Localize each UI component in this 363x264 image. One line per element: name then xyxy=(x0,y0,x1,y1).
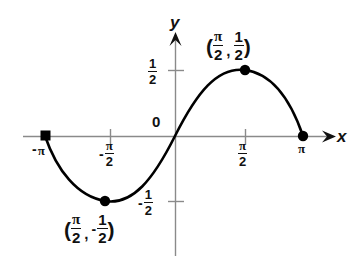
y-tick-neg-half-numerator: 1 xyxy=(144,188,153,203)
y-tick-half-denominator: 2 xyxy=(148,72,157,86)
peak-x-denominator: 2 xyxy=(213,46,223,62)
x-tick-neg-half-pi-denominator: 2 xyxy=(105,154,114,168)
peak-y-numerator: 1 xyxy=(234,29,244,46)
trough-y-numerator: 1 xyxy=(97,212,107,229)
trough-open-paren: ( xyxy=(64,219,71,240)
peak-close-paren: ) xyxy=(244,36,251,57)
sine-graph-figure: y x 0 1 2 - 1 2 - π - π xyxy=(0,0,363,264)
x-tick-label-half-pi: π 2 xyxy=(238,140,247,169)
marker-minimum-point xyxy=(100,196,110,206)
marker-left-endpoint-neg-pi xyxy=(41,131,51,141)
y-axis-label: y xyxy=(170,14,179,31)
peak-annotation: ( π 2 , 1 2 ) xyxy=(206,30,251,63)
x-tick-label-neg-pi: - π xyxy=(32,143,45,157)
x-tick-neg-pi-sign: - xyxy=(32,142,38,156)
x-tick-neg-half-pi-numerator: π xyxy=(105,139,114,154)
x-tick-half-pi-denominator: 2 xyxy=(238,154,247,168)
peak-comma: , xyxy=(223,43,233,58)
trough-close-paren: ) xyxy=(108,219,115,240)
y-tick-label-half: 1 2 xyxy=(148,58,157,87)
plot-canvas xyxy=(0,0,363,264)
x-tick-label-pi: π xyxy=(298,142,305,155)
trough-x-numerator: π xyxy=(71,212,81,229)
marker-maximum-point xyxy=(240,65,250,75)
trough-comma: , xyxy=(81,226,91,241)
trough-annotation: ( π 2 , - 1 2 ) xyxy=(64,213,115,246)
y-tick-label-neg-half: - 1 2 xyxy=(138,189,153,218)
x-tick-half-pi-numerator: π xyxy=(238,139,247,154)
origin-label: 0 xyxy=(152,114,160,129)
x-tick-neg-pi-symbol: π xyxy=(38,144,45,157)
sine-curve xyxy=(45,70,303,202)
peak-open-paren: ( xyxy=(206,36,213,57)
x-tick-label-neg-half-pi: - π 2 xyxy=(99,140,114,169)
trough-y-denominator: 2 xyxy=(97,229,107,245)
peak-x-numerator: π xyxy=(213,29,223,46)
marker-right-endpoint-pi xyxy=(298,131,308,141)
y-tick-half-numerator: 1 xyxy=(148,57,157,72)
trough-x-denominator: 2 xyxy=(71,229,81,245)
y-tick-neg-half-denominator: 2 xyxy=(144,203,153,217)
x-axis-label: x xyxy=(337,128,346,145)
peak-y-denominator: 2 xyxy=(234,46,244,62)
x-tick-pi-symbol: π xyxy=(298,141,305,156)
